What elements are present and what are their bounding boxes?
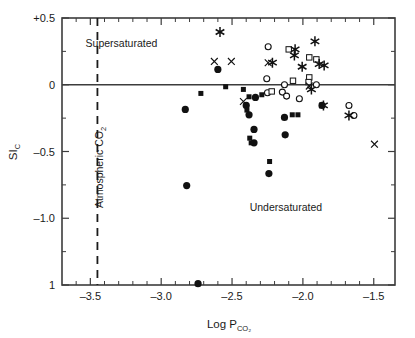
marker-asterisk <box>298 62 307 72</box>
x-tick-label: –3.5 <box>80 290 101 302</box>
series-asterisk <box>216 27 354 120</box>
supersaturated-label: Supersaturated <box>86 37 158 49</box>
marker-filled-square <box>241 87 246 92</box>
undersaturated-label: Undersaturated <box>250 201 323 213</box>
marker-filled-circle <box>252 94 259 101</box>
marker-filled-circle <box>194 280 201 287</box>
marker-filled-circle <box>182 106 189 113</box>
marker-open-circle <box>313 82 319 88</box>
marker-asterisk <box>268 58 277 68</box>
marker-open-circle <box>296 96 302 102</box>
marker-filled-square <box>249 140 254 145</box>
x-axis-title-main: Log P <box>207 318 237 330</box>
marker-open-square <box>307 55 312 60</box>
series-filled-circle <box>182 66 326 287</box>
y-axis-title: SIC <box>7 143 22 160</box>
series-ex-marker <box>211 58 378 148</box>
marker-asterisk <box>216 27 225 37</box>
x-axis-title-subscript: CO₂ <box>237 324 251 333</box>
plot-annotations: SupersaturatedUndersaturatedAtmospheric … <box>86 37 323 213</box>
x-tick-label: –2.5 <box>221 290 242 302</box>
marker-filled-square <box>259 92 264 97</box>
data-points-layer <box>182 27 378 287</box>
marker-open-circle <box>281 82 287 88</box>
marker-ex <box>228 58 235 65</box>
marker-open-circle <box>265 44 271 50</box>
marker-filled-square <box>290 112 295 117</box>
y-axis-title-main: SI <box>7 149 19 160</box>
y-tick-label: 1 <box>49 279 55 291</box>
marker-ex <box>211 58 218 65</box>
marker-filled-square <box>244 108 249 113</box>
x-tick-label: –3.0 <box>150 290 171 302</box>
marker-filled-circle <box>265 170 272 177</box>
marker-open-square <box>314 57 319 62</box>
y-tick-label: 0 <box>49 79 55 91</box>
atmospheric-co2-label-subscript: 2 <box>99 127 108 131</box>
scatter-plot-figure: –3.5–3.0–2.5–2.0–1.5+0.50–0.5–1.01 Super… <box>0 0 415 338</box>
marker-filled-circle <box>282 131 289 138</box>
x-axis-title: Log PCO₂ <box>207 318 251 333</box>
marker-asterisk <box>311 36 320 46</box>
marker-open-square <box>290 78 295 83</box>
y-tick-label: –1.0 <box>34 212 55 224</box>
marker-filled-square <box>223 84 228 89</box>
atmospheric-co2-label-group: Atmospheric CO2 <box>93 127 108 208</box>
marker-filled-circle <box>250 126 257 133</box>
y-tick-label: +0.5 <box>33 12 55 24</box>
marker-filled-square <box>247 136 252 141</box>
marker-filled-square <box>295 112 300 117</box>
y-axis-title-subscript: C <box>13 143 22 149</box>
plot-canvas: –3.5–3.0–2.5–2.0–1.5+0.50–0.5–1.01 Super… <box>0 0 415 338</box>
marker-open-circle <box>346 102 352 108</box>
marker-open-circle <box>264 76 270 82</box>
atmospheric-co2-label: Atmospheric CO2 <box>93 127 108 208</box>
marker-filled-circle <box>214 66 221 73</box>
marker-open-square <box>269 89 274 94</box>
y-tick-label: –0.5 <box>34 146 55 158</box>
marker-ex <box>371 141 378 148</box>
marker-filled-square <box>267 159 272 164</box>
x-tick-label: –1.5 <box>363 290 384 302</box>
y-axis-title-group: SIC <box>7 143 22 160</box>
marker-filled-square <box>247 94 252 99</box>
x-tick-label: –2.0 <box>292 290 313 302</box>
atmospheric-co2-label-main: Atmospheric CO <box>93 131 105 208</box>
marker-open-circle <box>284 93 290 99</box>
marker-filled-circle <box>183 182 190 189</box>
tick-labels: –3.5–3.0–2.5–2.0–1.5+0.50–0.5–1.01 <box>33 12 384 302</box>
marker-filled-circle <box>281 114 288 121</box>
marker-filled-square <box>198 91 203 96</box>
